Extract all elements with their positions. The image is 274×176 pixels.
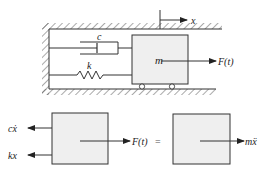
equals-sign: = [155,136,161,147]
free-body-right: mẍ [173,114,257,164]
spring-label: k [87,60,92,71]
free-body-left: cẋ kx F(t) [8,113,148,164]
bottom-wall-hatch [42,89,216,95]
spring: k [49,60,132,79]
wheel-right [169,84,174,89]
mass-label: m [155,54,163,66]
damping-force-label: cẋ [8,123,17,134]
applied-force-label: F(t) [131,136,148,148]
force-label: F(t) [217,56,234,68]
damper: c [49,31,132,54]
inertia-label: mẍ [245,136,257,147]
left-wall-hatch [42,23,49,95]
mass-spring-damper-diagram: x c k m F(t) cẋ kx F(t) = mẍ [0,0,274,176]
mass-block: m F(t) [132,35,234,89]
wheel-left [139,84,144,89]
displacement-label: x [190,15,196,26]
damper-label: c [97,31,102,42]
spring-force-label: kx [8,150,17,161]
